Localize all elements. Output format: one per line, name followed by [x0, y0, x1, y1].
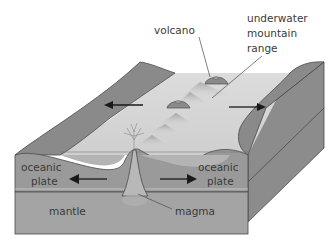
leader-volcano: [199, 37, 210, 77]
label-oceanic-plate-left-line1: oceanic: [21, 161, 62, 173]
label-mantle: mantle: [49, 205, 86, 217]
label-mountain-range-line2: mountain: [247, 27, 297, 39]
label-mountain-range-line3: range: [247, 42, 278, 54]
label-volcano: volcano: [154, 24, 195, 36]
label-mountain-range-line1: underwater: [247, 12, 308, 24]
label-oceanic-plate-right-line1: oceanic: [198, 161, 239, 173]
label-oceanic-plate-left-line2: plate: [31, 175, 58, 187]
label-oceanic-plate-right-line2: plate: [207, 175, 234, 187]
label-magma: magma: [175, 205, 215, 217]
magma-chamber: [122, 194, 148, 206]
mid-ocean-ridge-diagram: volcano underwater mountain range oceani…: [0, 0, 329, 242]
